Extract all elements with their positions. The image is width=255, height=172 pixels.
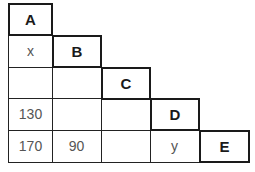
cell-e-d: y — [150, 130, 200, 163]
header-cell-e: E — [199, 130, 250, 163]
cell-e-b: 90 — [52, 130, 102, 163]
cell-e-c — [101, 130, 151, 163]
header-cell-c: C — [101, 67, 151, 100]
cell-d-a: 130 — [8, 98, 53, 131]
cell-d-b — [52, 98, 102, 131]
cell-c-a — [8, 67, 53, 99]
header-cell-a: A — [8, 3, 53, 36]
header-cell-b: B — [52, 35, 102, 68]
cell-b-a: x — [8, 35, 53, 68]
cell-c-b — [52, 67, 102, 99]
cell-e-a: 170 — [8, 130, 53, 163]
header-cell-d: D — [150, 98, 200, 131]
cell-d-c — [101, 98, 151, 131]
